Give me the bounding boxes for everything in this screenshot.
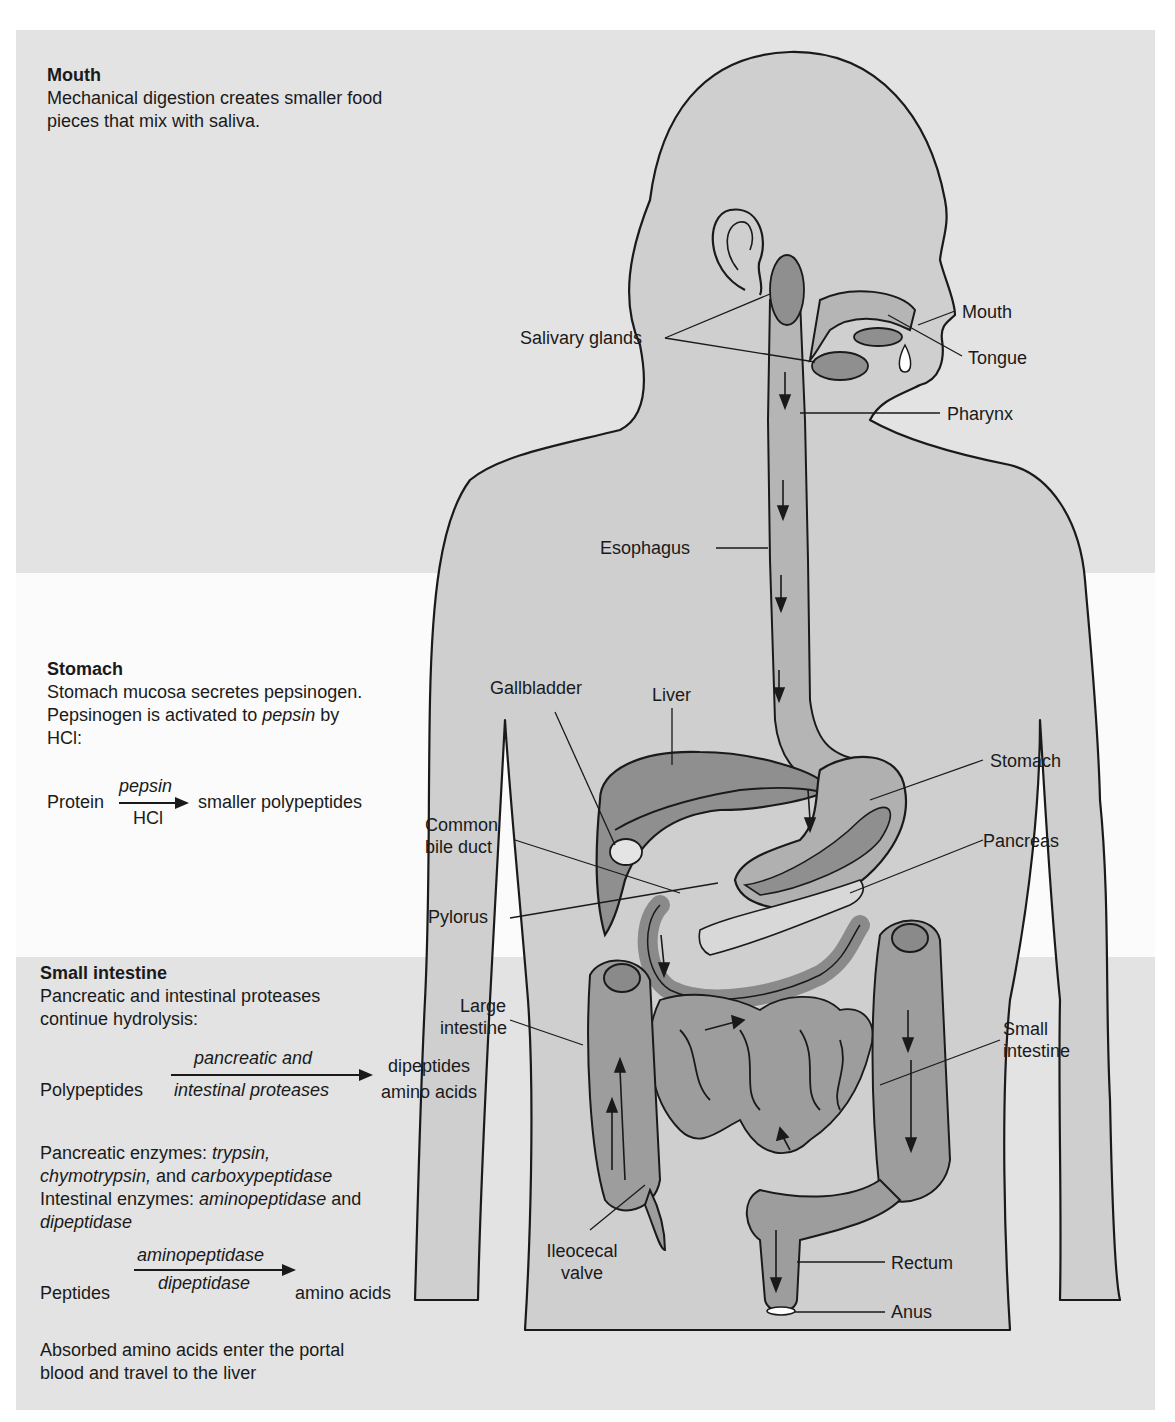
eq-product: smaller polypeptides [198,791,362,813]
pepsin-reaction-equation: Protein pepsin HCl smaller polypeptides [47,791,367,831]
mouth-desc-line-1: Mechanical digestion creates smaller foo… [47,87,382,110]
eq1-product-2: amino acids [381,1081,477,1103]
eq2-enzyme-over: aminopeptidase [137,1244,264,1266]
label-liver: Liver [652,684,691,706]
enzymes-list: Pancreatic enzymes: trypsin, chymotrypsi… [40,1142,361,1234]
eq-enzyme-over: pepsin [119,775,172,797]
eq1-enzyme-over: pancreatic and [194,1047,312,1069]
label-small-intestine: Small intestine [1003,1018,1070,1062]
parotid-gland [770,255,804,325]
eq2-enzyme-under: dipeptidase [158,1272,250,1294]
label-tongue: Tongue [968,347,1027,369]
label-pharynx: Pharynx [947,403,1013,425]
mouth-heading: Mouth [47,64,382,87]
submandibular-gland [812,352,868,380]
reaction-arrow-icon [134,1269,294,1271]
label-ileocecal-valve: Ileocecal valve [540,1240,624,1284]
label-gallbladder: Gallbladder [490,677,582,699]
si-desc-line-2: continue hydrolysis: [40,1008,320,1031]
label-esophagus: Esophagus [600,537,690,559]
label-pancreas: Pancreas [983,830,1059,852]
eq1-substrate: Polypeptides [40,1079,143,1101]
reaction-arrow-icon [171,1074,371,1076]
anus-opening [767,1307,795,1315]
label-common-bile-duct: Common bile duct [425,814,498,858]
pancreatic-enzymes-line-2: chymotrypsin, and carboxypeptidase [40,1165,361,1188]
intestinal-enzymes-line: Intestinal enzymes: aminopeptidase and [40,1188,361,1211]
eq1-enzyme-under: intestinal proteases [174,1079,329,1101]
small-intestine-panel: Small intestine Pancreatic and intestina… [40,962,320,1031]
stomach-desc-line-1: Stomach mucosa secretes pepsinogen. [47,681,362,704]
label-mouth: Mouth [962,301,1012,323]
label-pylorus: Pylorus [428,906,488,928]
eq-catalyst-under: HCl [133,807,163,829]
label-stomach: Stomach [990,750,1061,772]
label-rectum: Rectum [891,1252,953,1274]
eq2-product: amino acids [295,1282,391,1304]
eq-substrate: Protein [47,791,104,813]
mouth-panel: Mouth Mechanical digestion creates small… [47,64,382,133]
stomach-panel: Stomach Stomach mucosa secretes pepsinog… [47,658,362,750]
protease-reaction-equation: Polypeptides pancreatic and intestinal p… [40,1079,500,1129]
eq2-substrate: Peptides [40,1282,110,1304]
intestinal-enzymes-line-2: dipeptidase [40,1211,361,1234]
pepsin-term: pepsin [262,705,315,725]
pancreatic-enzymes-line: Pancreatic enzymes: trypsin, [40,1142,361,1165]
reaction-arrow-icon [119,802,187,804]
label-large-intestine: Large intestine [440,995,506,1039]
small-intestine-heading: Small intestine [40,962,320,985]
stomach-desc-line-2: Pepsinogen is activated to pepsin by [47,704,362,727]
mouth-desc-line-2: pieces that mix with saliva. [47,110,382,133]
peptidase-reaction-equation: Peptides aminopeptidase dipeptidase amin… [40,1282,420,1312]
label-anus: Anus [891,1301,932,1323]
gallbladder-organ [610,839,642,865]
absorption-note: Absorbed amino acids enter the portal bl… [40,1339,344,1385]
si-desc-line-1: Pancreatic and intestinal proteases [40,985,320,1008]
stomach-heading: Stomach [47,658,362,681]
sublingual-gland [854,328,902,346]
stomach-desc-line-3: HCl: [47,727,362,750]
eq1-product-1: dipeptides [388,1055,470,1077]
label-salivary-glands: Salivary glands [520,327,642,349]
